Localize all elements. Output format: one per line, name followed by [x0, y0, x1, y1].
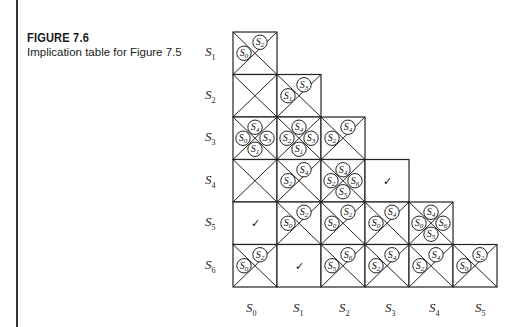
table-cell-s6-s1: ✓ — [277, 245, 321, 288]
table-cell-s6-s4: S4S2 — [409, 245, 453, 288]
table-cell-s5-s4: S4S5S0S6 — [409, 202, 453, 245]
table-cell-s4-s1: S4S2 — [277, 160, 321, 203]
table-cell-s2-s0 — [233, 75, 277, 118]
table-cell-s3-s2: S4S2 — [321, 117, 365, 160]
table-cell-s6-s2: S6S5 — [321, 245, 365, 288]
table-cell-s6-s0: S2S0 — [233, 245, 277, 288]
table-cell-s5-s2: S2S0 — [321, 202, 365, 245]
table-cell-s4-s2: S4S5S2S6 — [321, 160, 365, 203]
table-cell-s6-s3: S4S2 — [365, 245, 409, 288]
table-cell-s1-s0: S2S0 — [233, 32, 277, 75]
checkmark-icon: ✓ — [383, 175, 392, 187]
checkmark-icon: ✓ — [295, 260, 304, 272]
table-cell-s6-s5: S2S0 — [453, 245, 497, 288]
implication-table: S2S0S3S1S4S1S0S3S4S1S2S3S4S2S4S2S4S5S2S6… — [0, 0, 521, 327]
table-cell-s5-s0: ✓ — [233, 202, 277, 245]
table-cell-s5-s1: S2S0 — [277, 202, 321, 245]
table-cell-s3-s0: S4S1S0S3 — [233, 117, 277, 160]
table-cell-s4-s0 — [233, 160, 277, 203]
checkmark-icon: ✓ — [251, 217, 260, 229]
table-cell-s4-s3: ✓ — [365, 160, 409, 203]
table-cell-s3-s1: S4S1S2S3 — [277, 117, 321, 160]
table-cell-s2-s1: S3S1 — [277, 75, 321, 118]
table-cell-s5-s3: S4S0 — [365, 202, 409, 245]
